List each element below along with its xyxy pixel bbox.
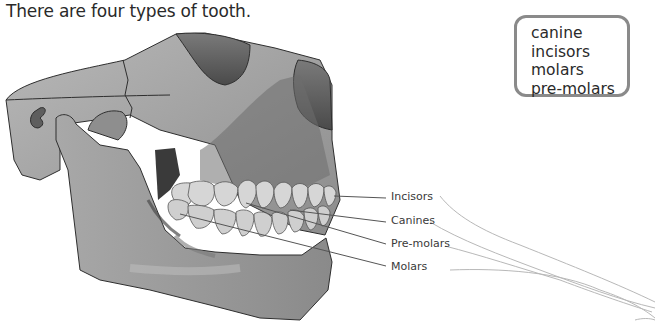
sketch-strokes [430,196,655,320]
leader-line-incisors [334,196,386,198]
label-molars: Molars [391,260,427,273]
label-canines: Canines [391,214,435,227]
label-pre-molars: Pre-molars [391,237,450,250]
skull-jaw-illustration [0,0,660,326]
label-incisors: Incisors [391,190,433,203]
